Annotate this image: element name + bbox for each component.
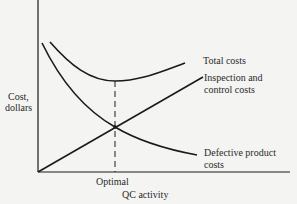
intersection-point <box>113 125 117 129</box>
total-costs-curve <box>50 42 185 81</box>
defective-costs-label-line2: costs <box>204 159 224 170</box>
inspection-costs-label-line1: Inspection and <box>204 72 263 83</box>
optimal-tick-label: Optimal <box>96 176 129 187</box>
defective-costs-curve <box>42 43 197 155</box>
y-axis-label-line1: Cost, <box>8 91 29 102</box>
total-costs-label: Total costs <box>203 55 246 66</box>
defective-costs-label-line1: Defective product <box>204 147 276 158</box>
inspection-costs-label-line2: control costs <box>204 84 255 95</box>
y-axis-label-line2: dollars <box>5 102 32 113</box>
x-axis-label: QC activity <box>122 189 168 200</box>
inspection-costs-curve <box>38 77 203 172</box>
chart-plot <box>0 0 297 204</box>
